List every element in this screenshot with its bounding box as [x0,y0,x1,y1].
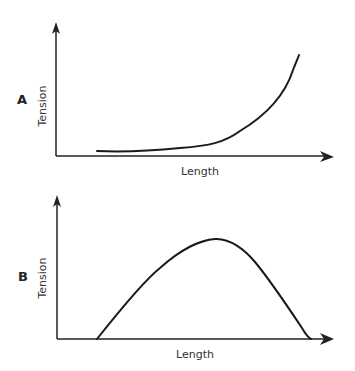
panel-a: A Tension Length [17,22,334,178]
panel-a-letter: A [17,92,27,107]
panel-b: B Tension Length [18,195,334,361]
panel-a-x-axis-label: Length [181,165,219,178]
panel-a-y-axis-label: Tension [36,85,49,127]
panel-a-curve [97,55,299,151]
panel-b-y-axis-label: Tension [36,257,49,299]
tension-length-diagram: A Tension Length B Tension Length [0,0,355,371]
panel-b-x-axis-label: Length [176,348,214,361]
panel-b-letter: B [18,269,28,284]
panel-b-curve [97,239,311,339]
